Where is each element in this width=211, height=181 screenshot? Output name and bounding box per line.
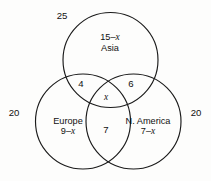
region-label-asia: 15–x Asia xyxy=(100,32,120,53)
outside-total-n-america: 20 xyxy=(191,108,202,119)
count-europe-n-america: 7 xyxy=(103,125,108,136)
europe-expression: 9–x xyxy=(53,126,83,137)
n-america-expression: 7–x xyxy=(126,126,171,137)
venn-diagram-figure: 15–x Asia Europe 9–x N. America 7–x 4 6 … xyxy=(0,0,211,181)
europe-expression-variable: x xyxy=(71,126,75,136)
circle-asia xyxy=(63,13,158,108)
count-asia-europe: 4 xyxy=(78,79,83,90)
europe-set-name: Europe xyxy=(53,116,83,126)
count-all-three-sets: x xyxy=(104,92,108,103)
venn-circles-svg xyxy=(0,0,211,181)
region-label-n-america: N. America 7–x xyxy=(126,116,171,137)
asia-expression: 15–x xyxy=(100,32,120,43)
count-asia-n-america: 6 xyxy=(128,79,133,90)
outside-total-europe: 20 xyxy=(9,108,20,119)
region-label-europe: Europe 9–x xyxy=(53,116,83,137)
asia-expression-variable: x xyxy=(116,32,120,42)
asia-expression-count: 15 xyxy=(100,32,110,42)
asia-set-name: Asia xyxy=(100,42,120,52)
n-america-expression-variable: x xyxy=(151,126,155,136)
n-america-set-name: N. America xyxy=(126,116,171,126)
outside-total-asia: 25 xyxy=(57,11,68,22)
